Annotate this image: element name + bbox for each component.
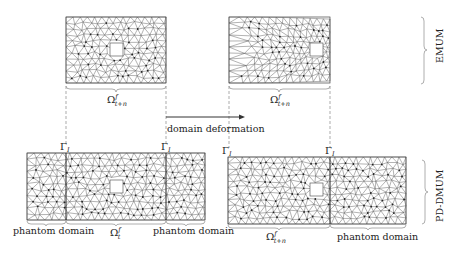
- mesh-node: [154, 57, 156, 59]
- mesh-node: [289, 65, 291, 67]
- mesh-node: [319, 41, 321, 43]
- mesh-node: [401, 176, 403, 178]
- mesh-node: [240, 167, 242, 169]
- mesh-node: [356, 168, 358, 170]
- mesh-node: [147, 70, 149, 72]
- mesh-node: [35, 169, 37, 171]
- mesh-node: [269, 181, 271, 183]
- mesh-node: [77, 164, 79, 166]
- mesh-node: [300, 36, 302, 38]
- mesh-node: [128, 42, 130, 44]
- mesh-node: [268, 77, 270, 79]
- omega-brace-top-left: [66, 86, 166, 92]
- mesh-node: [403, 199, 405, 201]
- mesh-node: [155, 47, 157, 49]
- omega-brace-bottom-right: [228, 225, 330, 230]
- mesh-node: [47, 201, 49, 203]
- mesh-node: [385, 206, 387, 208]
- mesh-node: [106, 175, 108, 177]
- mesh-node: [152, 195, 154, 197]
- mesh-node: [284, 63, 286, 65]
- mesh-node: [283, 47, 285, 49]
- pd-dmum-deformed-mesh: [228, 157, 406, 224]
- mesh-node: [135, 194, 137, 196]
- mesh-node: [148, 60, 150, 62]
- mesh-node: [108, 193, 110, 195]
- mesh-node: [276, 216, 278, 218]
- mesh-node: [142, 208, 144, 210]
- mesh-node: [184, 213, 186, 215]
- mesh-node: [261, 192, 263, 194]
- mesh-node: [381, 164, 383, 166]
- mesh-node: [241, 75, 243, 77]
- mesh-node: [262, 46, 264, 48]
- mesh-node: [181, 157, 183, 159]
- mesh-node: [99, 54, 101, 56]
- mesh-node: [94, 208, 96, 210]
- mesh-node: [141, 214, 143, 216]
- phantom-domain-label-bottom-right: phantom domain: [337, 231, 418, 242]
- mesh-node: [400, 185, 402, 187]
- mesh-node: [130, 159, 132, 161]
- mesh-node: [113, 194, 115, 196]
- mesh-node: [236, 185, 238, 187]
- mesh-node: [343, 176, 345, 178]
- mesh-node: [92, 170, 94, 172]
- mesh-node: [64, 207, 66, 209]
- mesh-node: [201, 159, 203, 161]
- pd-dmum-brace: [422, 160, 428, 224]
- mesh-node: [286, 217, 288, 219]
- mesh-node: [153, 189, 155, 191]
- mesh-node: [71, 158, 73, 160]
- mesh-node: [249, 193, 251, 195]
- mesh-node: [367, 176, 369, 178]
- mesh-node: [262, 39, 264, 41]
- omega-label-top-left: Ωft+n: [107, 93, 127, 108]
- mesh-node: [304, 182, 306, 184]
- mesh-node: [201, 193, 203, 195]
- mesh-node: [307, 198, 309, 200]
- mesh-node: [47, 164, 49, 166]
- mesh-node: [264, 181, 266, 183]
- mesh-node: [75, 177, 77, 179]
- mesh-node: [123, 183, 125, 185]
- mesh-node: [236, 194, 238, 196]
- mesh-node: [280, 58, 282, 60]
- mesh-node: [279, 36, 281, 38]
- mesh-node: [118, 201, 120, 203]
- mesh-node: [343, 206, 345, 208]
- mesh-node: [83, 177, 85, 179]
- domain-deformation-label: domain deformation: [167, 123, 265, 134]
- mesh-node: [368, 216, 370, 218]
- mesh-node: [303, 211, 305, 213]
- mesh-node: [32, 201, 34, 203]
- mesh-node: [71, 78, 73, 80]
- mesh-node: [364, 216, 366, 218]
- mesh-node: [367, 212, 369, 214]
- mesh-node: [85, 76, 87, 78]
- mesh-node: [257, 35, 259, 37]
- mesh-node: [150, 157, 152, 159]
- mesh-node: [303, 173, 305, 175]
- mesh-node: [246, 176, 248, 178]
- mesh-node: [372, 164, 374, 166]
- mesh-node: [251, 161, 253, 163]
- mesh-node: [272, 51, 274, 53]
- mesh-node: [139, 164, 141, 166]
- mesh-node: [244, 162, 246, 164]
- mesh-node: [91, 46, 93, 48]
- mesh-node: [273, 162, 275, 164]
- mesh-node: [192, 183, 194, 185]
- mesh-node: [190, 189, 192, 191]
- mesh-node: [79, 75, 81, 77]
- mesh-node: [370, 206, 372, 208]
- omega-label-bottom-left: Ωft: [110, 226, 122, 241]
- mesh-node: [324, 175, 326, 177]
- mesh-node: [323, 61, 325, 63]
- mesh-node: [104, 213, 106, 215]
- mesh-node: [382, 200, 384, 202]
- mesh-node: [133, 214, 135, 216]
- mesh-node: [126, 176, 128, 178]
- mesh-node: [302, 200, 304, 202]
- mesh-node: [94, 193, 96, 195]
